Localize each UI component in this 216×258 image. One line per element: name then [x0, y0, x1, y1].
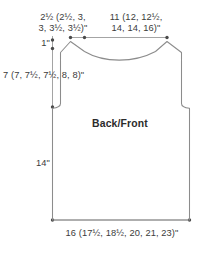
armhole-depth-label: 7 (7, 7½, 7½, 8, 8)"	[3, 70, 103, 81]
shoulder-width-label: 2½ (2½, 3, 3, 3½, 3½)"	[27, 12, 99, 33]
shoulder-width-line-2: 3, 3½, 3½)"	[27, 23, 99, 34]
garment-schematic-diagram: 2½ (2½, 3, 3, 3½, 3½)" 11 (12, 12½, 14, …	[0, 0, 216, 258]
upper-width-line-2: 14, 14, 16)"	[98, 23, 174, 34]
upper-width-line-1: 11 (12, 12½,	[98, 12, 174, 23]
upper-body-width-label: 11 (12, 12½, 14, 14, 16)"	[98, 12, 174, 33]
garment-body-outline	[53, 42, 190, 221]
shoulder-width-line-1: 2½ (2½, 3,	[27, 12, 99, 23]
piece-name-label: Back/Front	[73, 119, 167, 130]
neck-depth-label: 1"	[31, 38, 50, 49]
bottom-width-label: 16 (17½, 18½, 20, 21, 23)"	[36, 228, 208, 239]
body-length-label: 14"	[25, 158, 50, 169]
